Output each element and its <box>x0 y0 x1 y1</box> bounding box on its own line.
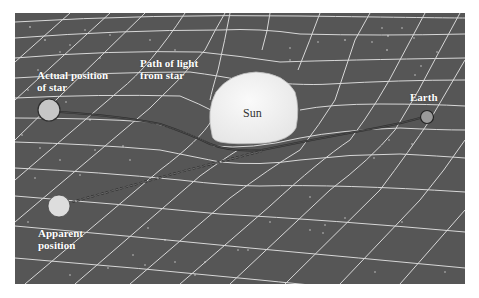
light-path-label: Path of light from star <box>140 57 198 81</box>
spacetime-diagram: Actual position of star Path of light fr… <box>0 0 479 298</box>
earth <box>421 111 434 124</box>
apparent-label-line1: Apparent <box>38 227 83 239</box>
actual-star-label: Actual position of star <box>37 69 108 93</box>
apparent-label-line2: position <box>38 239 83 251</box>
apparent-position-label: Apparent position <box>38 227 83 251</box>
actual-star-label-line2: of star <box>37 81 108 93</box>
actual-star <box>38 99 60 121</box>
light-path-label-line1: Path of light <box>140 57 198 69</box>
light-path-label-line2: from star <box>140 69 198 81</box>
earth-label: Earth <box>410 91 438 103</box>
actual-star-label-line1: Actual position <box>37 69 108 81</box>
diagram-canvas <box>0 0 479 298</box>
sun-label: Sun <box>243 106 262 121</box>
apparent-star <box>48 195 70 217</box>
